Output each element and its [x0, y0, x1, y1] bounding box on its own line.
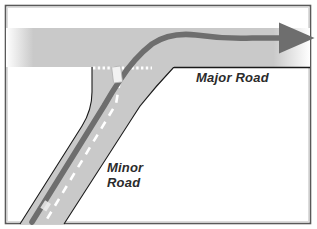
minor-road-label-line2: Road	[107, 175, 143, 190]
minor-road-label-line1: Minor	[107, 160, 143, 175]
major-road	[6, 28, 310, 68]
minor-road-label: Minor Road	[107, 160, 143, 190]
major-road-label: Major Road	[196, 70, 269, 85]
diagram-canvas	[0, 0, 317, 229]
vehicle	[112, 66, 123, 83]
road-junction-figure: Major Road Minor Road	[0, 0, 317, 229]
